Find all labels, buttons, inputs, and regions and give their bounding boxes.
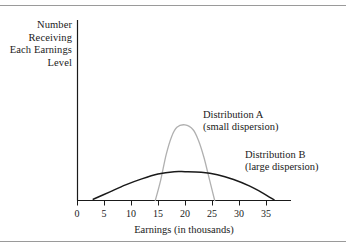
distribution-a-title: Distribution A <box>203 109 279 121</box>
figure-container: Number Receiving Each Earnings Level 051… <box>0 0 346 248</box>
distribution-b-curve <box>93 171 274 199</box>
x-axis-tick-marks <box>78 201 267 206</box>
x-axis-tick-label-20: 20 <box>174 209 196 219</box>
x-axis-tick-label-35: 35 <box>255 209 277 219</box>
x-axis-tick-label-10: 10 <box>120 209 142 219</box>
distribution-a-annotation: Distribution A (small dispersion) <box>203 109 279 134</box>
distribution-b-title: Distribution B <box>245 149 319 161</box>
x-axis-tick-label-5: 5 <box>93 209 115 219</box>
x-axis-tick-label-0: 0 <box>66 209 88 219</box>
x-axis-tick-label-25: 25 <box>201 209 223 219</box>
distribution-a-subtitle: (small dispersion) <box>203 121 279 133</box>
distribution-a-curve <box>155 125 214 201</box>
x-axis-title: Earnings (in thousands) <box>77 224 291 236</box>
plot-area <box>0 0 346 248</box>
distribution-b-subtitle: (large dispersion) <box>245 161 319 173</box>
distribution-b-annotation: Distribution B (large dispersion) <box>245 149 319 174</box>
x-axis-tick-label-15: 15 <box>147 209 169 219</box>
x-axis-tick-label-30: 30 <box>228 209 250 219</box>
